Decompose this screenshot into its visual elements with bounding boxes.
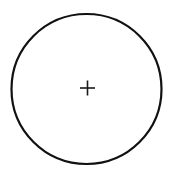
figure-canvas [0, 0, 175, 176]
circle-diagram-svg [0, 0, 175, 176]
